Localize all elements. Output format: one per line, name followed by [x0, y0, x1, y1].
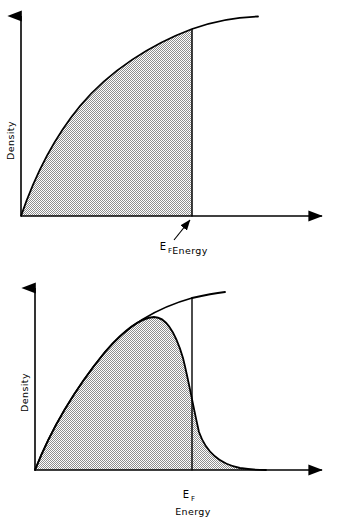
occupied-states-fill-bottom: [35, 317, 266, 470]
figure-density-of-states: Density E F Energy: [0, 0, 338, 519]
y-axis-label-bottom: Density: [19, 373, 30, 412]
chart-panel-bottom: Density E F Energy: [0, 260, 338, 519]
chart-svg-bottom: Density E F Energy: [0, 260, 338, 519]
x-axis-label-top: Energy: [172, 245, 208, 256]
occupied-states-fill-top: [21, 29, 192, 216]
ef-pointer-arrow-top: [174, 220, 190, 240]
chart-svg-top: Density E F Energy: [0, 0, 338, 260]
ef-label-bottom: E: [183, 489, 189, 500]
ef-subscript-bottom: F: [191, 495, 195, 503]
y-axis-label-top: Density: [5, 121, 16, 160]
x-axis-label-bottom: Energy: [175, 506, 211, 517]
chart-panel-top: Density E F Energy: [0, 0, 338, 260]
ef-label-top: E: [160, 241, 166, 252]
